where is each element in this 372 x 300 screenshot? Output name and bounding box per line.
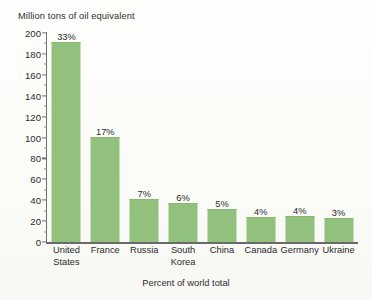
- x-category-label-line: States: [47, 257, 86, 269]
- bar[interactable]: [207, 209, 236, 242]
- bar[interactable]: [246, 217, 275, 242]
- y-tick-label: 20: [30, 216, 41, 227]
- x-category-label-line: Russia: [125, 245, 164, 257]
- bar-value-label: 3%: [332, 208, 345, 218]
- bar[interactable]: [169, 203, 198, 242]
- bar-slot: 3%: [319, 33, 358, 242]
- y-axis-title: Million tons of oil equivalent: [18, 11, 135, 21]
- x-category-label-line: United: [47, 245, 86, 257]
- y-tick-label: 80: [30, 153, 41, 164]
- bar-value-label: 4%: [254, 207, 267, 217]
- x-category-label-line: France: [86, 245, 125, 257]
- y-tick-label: 140: [25, 90, 41, 101]
- x-category-label: China: [203, 245, 242, 257]
- x-category-label-line: Korea: [164, 257, 203, 269]
- x-category-label-line: Ukraine: [319, 245, 358, 257]
- bar-slot: 7%: [125, 33, 164, 242]
- bar-slot: 6%: [164, 33, 203, 242]
- bar-value-label: 33%: [57, 32, 76, 42]
- x-category-label: Germany: [280, 245, 319, 257]
- x-category-label-line: China: [203, 245, 242, 257]
- y-tick-label: 120: [25, 111, 41, 122]
- bar[interactable]: [130, 199, 159, 242]
- x-category-label: Canada: [241, 245, 280, 257]
- y-tick-label: 0: [36, 237, 41, 248]
- bar[interactable]: [285, 216, 314, 242]
- x-category-label-line: Canada: [241, 245, 280, 257]
- y-tick-label: 180: [25, 48, 41, 59]
- chart-figure: Million tons of oil equivalent 200180160…: [0, 0, 372, 300]
- x-category-label-line: Germany: [280, 245, 319, 257]
- x-category-label: Ukraine: [319, 245, 358, 257]
- y-tick-label: 200: [25, 28, 41, 39]
- bar-value-label: 5%: [215, 199, 228, 209]
- bar-value-label: 7%: [137, 189, 150, 199]
- y-tick-label: 40: [30, 195, 41, 206]
- bar-slot: 4%: [280, 33, 319, 242]
- y-tick-label: 100: [25, 132, 41, 143]
- x-category-label: Russia: [125, 245, 164, 257]
- bar-series: 33%17%7%6%5%4%4%3%: [47, 33, 358, 242]
- bar[interactable]: [324, 218, 353, 242]
- bar-value-label: 6%: [176, 193, 189, 203]
- bar-value-label: 4%: [293, 206, 306, 216]
- bar-slot: 17%: [86, 33, 125, 242]
- bar[interactable]: [91, 137, 120, 243]
- x-category-label: UnitedStates: [47, 245, 86, 268]
- x-category-label: SouthKorea: [164, 245, 203, 268]
- bar-slot: 4%: [241, 33, 280, 242]
- x-axis-title: Percent of world total: [0, 278, 372, 288]
- y-tick-label: 160: [25, 69, 41, 80]
- y-tick-label: 60: [30, 174, 41, 185]
- bar[interactable]: [52, 42, 81, 242]
- bar-slot: 33%: [47, 33, 86, 242]
- x-axis-category-labels: UnitedStatesFranceRussiaSouthKoreaChinaC…: [47, 245, 358, 279]
- plot-area: 200180160140120100806040200 33%17%7%6%5%…: [47, 33, 358, 242]
- bar-value-label: 17%: [96, 127, 115, 137]
- x-category-label: France: [86, 245, 125, 257]
- bar-slot: 5%: [203, 33, 242, 242]
- x-category-label-line: South: [164, 245, 203, 257]
- x-axis-line: [46, 242, 358, 244]
